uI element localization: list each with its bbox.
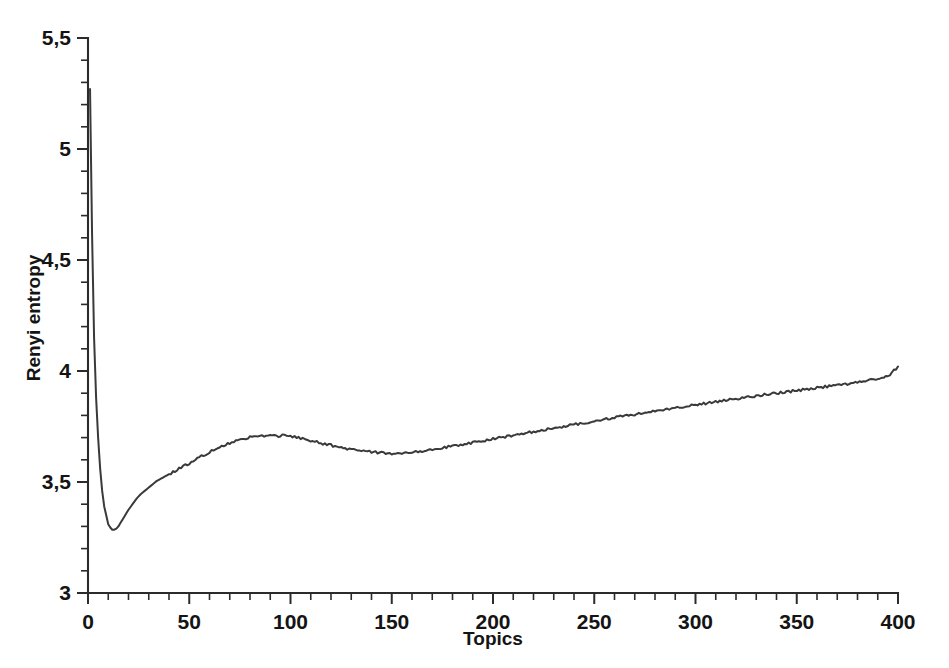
y-tick-label: 4,5 bbox=[42, 248, 72, 271]
x-tick-label: 350 bbox=[779, 610, 814, 633]
x-tick-label: 400 bbox=[880, 610, 915, 633]
y-tick-label: 3,5 bbox=[42, 470, 72, 493]
x-tick-label: 50 bbox=[178, 610, 201, 633]
y-axis-title: Renyi entropy bbox=[23, 254, 44, 381]
axis-lines bbox=[88, 38, 898, 593]
y-tick-label: 5 bbox=[59, 137, 71, 160]
chart-figure: 33,544,555,5 050100150200250300350400 Re… bbox=[0, 0, 949, 668]
y-tick-label: 5,5 bbox=[42, 26, 72, 49]
y-tick-label: 4 bbox=[59, 359, 71, 382]
x-axis-title: Topics bbox=[463, 628, 523, 649]
y-axis-ticks bbox=[77, 38, 88, 593]
x-axis-ticks bbox=[88, 593, 898, 604]
x-tick-label: 150 bbox=[374, 610, 409, 633]
data-series-group bbox=[90, 89, 898, 530]
x-tick-label: 0 bbox=[82, 610, 94, 633]
chart-canvas: 33,544,555,5 050100150200250300350400 Re… bbox=[0, 0, 949, 668]
series-line-renyi-entropy bbox=[90, 89, 898, 530]
x-tick-label: 300 bbox=[678, 610, 713, 633]
x-tick-label: 250 bbox=[577, 610, 612, 633]
y-axis-tick-labels: 33,544,555,5 bbox=[42, 26, 72, 604]
x-tick-label: 100 bbox=[273, 610, 308, 633]
y-tick-label: 3 bbox=[59, 581, 71, 604]
